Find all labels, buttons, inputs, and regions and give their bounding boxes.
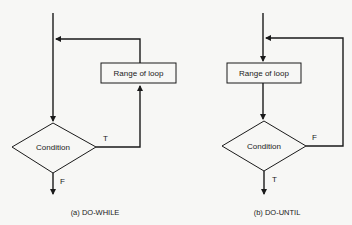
range-of-loop-label: Range of loop — [239, 69, 289, 78]
do-while-diagram: Condition T Range of loop F (a) DO-WHILE — [12, 13, 176, 217]
false-label: F — [60, 177, 65, 186]
do-until-diagram: Range of loop Condition F T (b) DO-UNTIL — [222, 13, 343, 217]
flowchart-canvas: Condition T Range of loop F (a) DO-WHILE… — [0, 0, 352, 225]
range-of-loop-label: Range of loop — [114, 69, 164, 78]
caption-a: (a) DO-WHILE — [71, 208, 120, 217]
decision-label: Condition — [36, 143, 70, 152]
caption-b: (b) DO-UNTIL — [254, 208, 301, 217]
true-label: T — [272, 175, 277, 184]
false-label: F — [312, 133, 317, 142]
true-label: T — [103, 134, 108, 143]
loop-return-line — [56, 39, 140, 63]
decision-label: Condition — [247, 142, 281, 151]
